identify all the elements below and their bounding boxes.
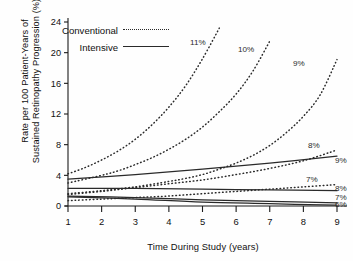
y-tick-label: 0 (56, 201, 61, 211)
x-tick-label: 9 (334, 216, 339, 227)
curve-label: 8% (335, 184, 347, 193)
chart-plot-area: 0481216202412345678911%10%9%8%9%7%8%7%6% (0, 0, 353, 261)
x-tick-label: 1 (65, 216, 70, 227)
y-tick-label: 8 (56, 140, 61, 150)
y-axis-label: Rate per 100 Patient-Years of Sustained … (18, 0, 44, 174)
y-tick-label: 16 (51, 79, 61, 89)
curve-label: 9% (335, 156, 347, 165)
y-axis-label-line2: Sustained Retinopathy Progression (%) (31, 0, 43, 163)
curve-label: 11% (190, 38, 206, 47)
y-tick-label: 20 (51, 48, 61, 58)
curve-label: 6% (335, 200, 347, 209)
chart-legend: Conventional Intensive (62, 22, 169, 56)
curve-label: 10% (238, 45, 254, 54)
curve-label: 9% (293, 59, 305, 68)
y-tick-label: 24 (51, 17, 61, 27)
legend-item-conventional: Conventional (62, 22, 169, 39)
curve-label: 8% (308, 141, 320, 150)
retinopathy-progression-chart: 0481216202412345678911%10%9%8%9%7%8%7%6%… (0, 0, 353, 261)
y-tick-label: 4 (56, 171, 61, 181)
x-tick-label: 3 (133, 216, 138, 227)
legend-label-conventional: Conventional (62, 25, 118, 36)
legend-item-intensive: Intensive (62, 39, 169, 56)
y-tick-label: 12 (51, 109, 61, 119)
series-line (68, 197, 337, 205)
legend-swatch-solid-icon (123, 46, 169, 49)
x-tick-label: 2 (99, 216, 104, 227)
legend-swatch-dotted-icon (123, 29, 169, 32)
x-tick-label: 7 (267, 216, 272, 227)
y-axis-label-line1: Rate per 100 Patient-Years of (20, 19, 32, 143)
x-tick-label: 4 (166, 216, 171, 227)
x-tick-label: 6 (234, 216, 239, 227)
series-line (68, 156, 337, 179)
x-axis-label: Time During Study (years) (68, 241, 338, 252)
x-tick-label: 8 (301, 216, 306, 227)
curve-label: 7% (306, 175, 318, 184)
x-tick-label: 5 (200, 216, 205, 227)
legend-label-intensive: Intensive (80, 42, 118, 53)
